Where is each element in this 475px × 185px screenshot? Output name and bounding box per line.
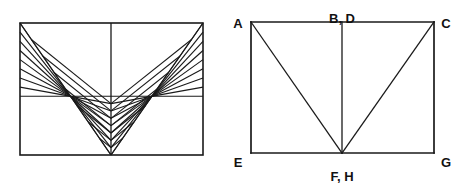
vertex-label-bd: B, D xyxy=(329,11,355,26)
vertex-label-g: G xyxy=(441,155,451,170)
vertex-label-e: E xyxy=(234,155,243,170)
vertex-label-a: A xyxy=(233,16,243,31)
vertex-label-c: C xyxy=(441,16,451,31)
vertex-label-fh: F, H xyxy=(330,169,353,184)
geometric-figures-canvas: AB, DCEF, HG xyxy=(0,0,475,185)
